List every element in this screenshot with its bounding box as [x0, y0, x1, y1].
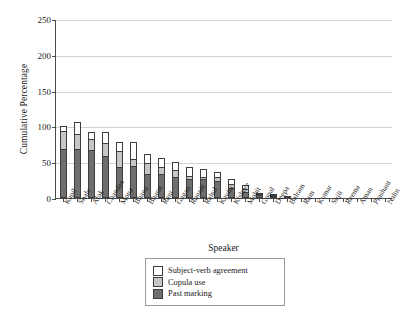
bar-series-group [56, 20, 392, 198]
x-label-slot: Sujit [322, 200, 336, 248]
bar-segment [158, 167, 165, 175]
bar-slot [378, 20, 392, 198]
x-label-slot: Mohit [238, 200, 252, 248]
bar-slot [196, 20, 210, 198]
y-axis-tick-label: 0 [47, 194, 52, 204]
bar-segment [88, 139, 95, 150]
bar-slot [252, 20, 266, 198]
y-axis-tick-label: 50 [42, 158, 51, 168]
bar-slot [56, 20, 70, 198]
stacked-bar[interactable] [74, 122, 81, 198]
x-label-slot: Kumar [308, 200, 322, 248]
y-axis-tick-label: 100 [38, 122, 52, 132]
bar-slot [238, 20, 252, 198]
bar-segment [116, 151, 123, 167]
x-label-slot: Shalu [69, 200, 83, 248]
legend-label: Subject-verb agreement [168, 266, 248, 275]
bar-segment [144, 163, 151, 174]
bar-segment [186, 167, 193, 176]
bar-slot [224, 20, 238, 198]
x-axis-labels: KapilShaluAlokChandanMonaBhanuBharatRani… [55, 200, 392, 248]
bar-segment [88, 132, 95, 139]
x-label-slot: Kishore [224, 200, 238, 248]
x-label-slot: Rani [153, 200, 167, 248]
x-label-slot: Balram [280, 200, 294, 248]
y-axis-tick-label: 200 [38, 51, 52, 61]
bar-segment [200, 169, 207, 176]
x-label-slot: Bharat [139, 200, 153, 248]
bar-segment [102, 132, 109, 143]
plot-area: 050100150200250 [55, 20, 392, 199]
x-label-slot: Kavita [210, 200, 224, 248]
y-axis-tick-label: 250 [38, 15, 52, 25]
bar-slot [168, 20, 182, 198]
legend-item[interactable]: Copula use [153, 277, 277, 287]
legend-swatch [153, 266, 163, 276]
bar-segment [116, 142, 123, 151]
bar-slot [364, 20, 378, 198]
x-label-slot: Prashant [364, 200, 378, 248]
x-label-slot: Mona [111, 200, 125, 248]
bar-segment [60, 131, 67, 150]
legend-label: Past marking [168, 289, 212, 298]
x-label-slot: Ronnie [181, 200, 195, 248]
x-label-slot: Reema [336, 200, 350, 248]
x-label-slot: Bhanu [125, 200, 139, 248]
bar-segment [158, 158, 165, 167]
bar-slot [350, 20, 364, 198]
bar-segment [144, 154, 151, 163]
x-label-slot: Kapil [55, 200, 69, 248]
bar-slot [182, 20, 196, 198]
x-axis-title: Speaker [55, 243, 392, 253]
bar-slot [98, 20, 112, 198]
bar-segment [102, 143, 109, 157]
x-label-slot: Ram [294, 200, 308, 248]
bar-segment [74, 134, 81, 150]
x-label-slot: Gagan [167, 200, 181, 248]
bar-slot [336, 20, 350, 198]
y-axis-tick-label: 150 [38, 87, 52, 97]
bar-segment [60, 149, 67, 198]
x-label-slot: Gopal [252, 200, 266, 248]
stacked-bar[interactable] [60, 126, 67, 198]
legend-item[interactable]: Subject-verb agreement [153, 266, 277, 276]
bar-slot [154, 20, 168, 198]
bar-segment [130, 159, 137, 166]
legend-swatch [153, 289, 163, 299]
x-label-slot: Alok [83, 200, 97, 248]
bar-slot [70, 20, 84, 198]
bar-slot [210, 20, 224, 198]
x-label-slot: Aman [350, 200, 364, 248]
bar-slot [84, 20, 98, 198]
legend-item[interactable]: Past marking [153, 289, 277, 299]
legend-label: Copula use [168, 278, 205, 287]
chart-figure: Cumulative Percentage 050100150200250 Ka… [0, 0, 406, 328]
bar-slot [308, 20, 322, 198]
bar-slot [126, 20, 140, 198]
x-label-slot: Nalin [378, 200, 392, 248]
bar-slot [112, 20, 126, 198]
bar-segment [172, 162, 179, 170]
bar-slot [280, 20, 294, 198]
bar-slot [140, 20, 154, 198]
bar-segment [74, 122, 81, 133]
x-label-slot: Chandan [97, 200, 111, 248]
legend-swatch [153, 277, 163, 287]
x-label-slot: Deepa [266, 200, 280, 248]
bar-slot [294, 20, 308, 198]
bar-slot [266, 20, 280, 198]
bar-segment [130, 142, 137, 158]
x-label-slot: Rahul [195, 200, 209, 248]
bar-slot [322, 20, 336, 198]
stacked-bar[interactable] [102, 132, 109, 198]
legend: Subject-verb agreementCopula usePast mar… [145, 258, 285, 306]
y-axis-title: Cumulative Percentage [19, 24, 29, 194]
